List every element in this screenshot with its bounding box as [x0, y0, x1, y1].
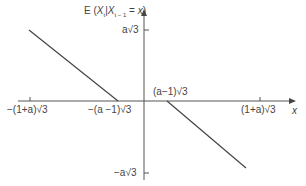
xtick-near-left-label: −(a −1)√3 — [88, 105, 131, 115]
ylabel-eq: = — [126, 5, 137, 16]
xtick-near-right-label: (a−1)√3 — [153, 87, 188, 97]
y-axis-label: E (Xt|Xt − 1 = x) — [84, 6, 146, 18]
x-axis-arrow-icon — [289, 98, 296, 104]
left-segment — [29, 30, 118, 101]
ytick-bottom-label: −a√3 — [114, 168, 136, 178]
right-segment — [167, 101, 246, 168]
ylabel-close: ) — [143, 5, 146, 16]
ylabel-e: E ( — [84, 5, 97, 16]
xtick-far-left-label: −(1+a)√3 — [7, 105, 48, 115]
xtick-far-right-label: (1+a)√3 — [241, 105, 276, 115]
ytick-top-label: a√3 — [122, 25, 139, 35]
x-axis-label: x — [292, 106, 297, 116]
ylabel-sub: t − 1 — [114, 12, 126, 18]
